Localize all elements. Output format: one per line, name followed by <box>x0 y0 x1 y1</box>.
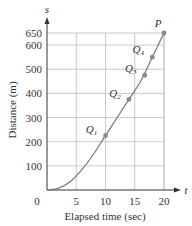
point-q2 <box>126 97 131 102</box>
x-tick-label: 20 <box>159 195 171 207</box>
y-tick-label: 200 <box>26 136 43 148</box>
point-label-subscript: 4 <box>141 49 145 57</box>
point-label-subscript: 1 <box>94 129 98 137</box>
x-axis-arrow-icon <box>174 188 181 193</box>
point-p <box>162 31 167 36</box>
y-tick-label: 650 <box>26 27 43 39</box>
point-q4 <box>150 55 155 60</box>
y-tick-label: 100 <box>26 160 43 172</box>
x-axis-title: Elapsed time (sec) <box>64 210 146 223</box>
point-label-q1: Q1 <box>86 123 97 137</box>
x-tick-label: 5 <box>74 195 80 207</box>
secant-points: Q1Q2Q3Q4P <box>86 17 167 138</box>
y-tick-label: 500 <box>26 63 43 75</box>
y-axis-title: Distance (m) <box>6 81 19 138</box>
y-tick-label: 400 <box>26 87 43 99</box>
point-label-p: P <box>154 17 162 29</box>
y-axis-arrow-icon <box>45 17 50 24</box>
y-tick-label: 600 <box>26 39 43 51</box>
point-label-q2: Q2 <box>109 87 121 101</box>
x-tick-label: 10 <box>100 195 112 207</box>
x-tick-label: 0 <box>34 195 40 207</box>
point-q3 <box>142 73 147 78</box>
point-q1 <box>103 133 108 138</box>
distance-time-chart: Q1Q2Q3Q4P 05101520100200300400500600650s… <box>0 0 192 226</box>
y-axis-symbol: s <box>45 3 49 15</box>
grid <box>47 33 164 190</box>
x-tick-label: 15 <box>129 195 141 207</box>
x-axis-symbol: t <box>184 184 188 196</box>
point-label-subscript: 3 <box>132 68 137 76</box>
y-tick-label: 300 <box>26 112 43 124</box>
point-label-subscript: 2 <box>117 93 121 101</box>
